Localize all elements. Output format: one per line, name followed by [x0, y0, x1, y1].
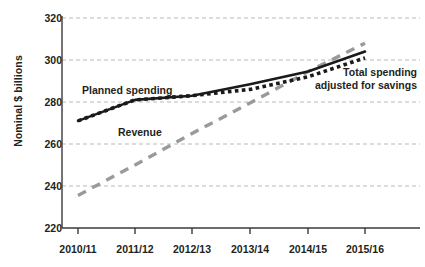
annotation-revenue: Revenue	[118, 126, 162, 139]
chart-plot-area	[0, 0, 425, 267]
annotation-total-spending-line2: adjusted for savings	[237, 79, 417, 92]
annotation-total-spending-line1: Total spending	[237, 66, 417, 79]
x-tick-marks	[78, 228, 365, 234]
axis-lines	[62, 16, 420, 228]
chart-container: Nominal $ billions 320 300 280 260 240 2…	[0, 0, 425, 267]
gridlines	[62, 18, 420, 186]
annotation-planned-spending: Planned spending	[82, 84, 172, 97]
